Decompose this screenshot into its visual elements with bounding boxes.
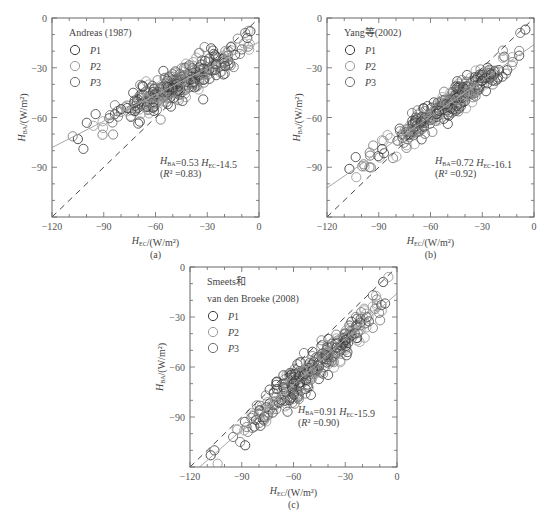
legend-label: P2: [364, 61, 376, 72]
x-tick-label: −30: [199, 221, 215, 232]
data-point: [236, 437, 245, 446]
y-tick-label: −90: [306, 162, 322, 173]
legend-marker-icon: [70, 61, 79, 70]
plot-area: [327, 18, 534, 217]
data-point: [351, 153, 360, 162]
figure: −120−90−60−300−90−60−300HEC/(W/m²)HBA/(W…: [0, 0, 543, 519]
x-axis-label: HEC/(W/m²): [406, 235, 454, 249]
legend-marker-icon: [208, 343, 217, 352]
data-point: [241, 441, 250, 450]
one-to-one-line: [52, 18, 259, 217]
x-tick-label: −90: [96, 221, 112, 232]
data-point: [256, 421, 265, 430]
data-point: [299, 348, 308, 357]
data-point: [207, 44, 216, 53]
x-tick-label: 0: [257, 221, 262, 232]
x-tick-label: −60: [423, 221, 439, 232]
legend-label: P3: [227, 343, 239, 354]
data-point: [379, 277, 388, 286]
legend-title: Smeets和: [207, 276, 246, 287]
x-tick-label: −30: [474, 221, 490, 232]
x-axis-label: HEC/(W/m²): [269, 485, 317, 499]
legend-marker-icon: [208, 327, 217, 336]
data-point: [91, 110, 100, 119]
legend-marker-icon: [345, 61, 354, 70]
regression-line: [52, 42, 259, 147]
legend-label: P1: [227, 311, 239, 322]
data-point: [200, 42, 209, 51]
x-tick-label: −60: [286, 471, 302, 482]
x-tick-label: −90: [234, 471, 250, 482]
plot-area: [52, 18, 259, 217]
data-point: [240, 417, 249, 426]
x-tick-label: −60: [148, 221, 164, 232]
legend-label: P3: [89, 77, 101, 88]
y-tick-label: −60: [169, 362, 185, 373]
data-point: [156, 115, 165, 124]
legend-label: P1: [89, 45, 101, 56]
y-axis-label: HBA/(W/m²): [154, 343, 168, 392]
legend-title: Yang等(2002): [344, 26, 401, 39]
r-squared-label: (R² =0.83): [160, 168, 201, 180]
x-tick-label: 0: [395, 471, 400, 482]
regression-line: [190, 294, 397, 476]
scatter-panel-c: −120−90−60−300−90−60−300HEC/(W/m²)HBA/(W…: [154, 262, 400, 511]
data-point: [384, 272, 393, 281]
y-tick-label: −90: [169, 412, 185, 423]
y-axis-label: HBA/(W/m²): [16, 93, 30, 142]
y-tick-label: 0: [180, 262, 185, 273]
y-axis-label: HBA/(W/m²): [291, 93, 305, 142]
data-point: [98, 130, 107, 139]
data-point: [199, 95, 208, 104]
data-point: [68, 132, 77, 141]
legend-label: P1: [364, 45, 376, 56]
data-point: [516, 28, 525, 37]
one-to-one-line: [327, 18, 534, 217]
y-tick-label: 0: [317, 13, 322, 24]
x-tick-label: −90: [371, 221, 387, 232]
y-tick-label: −30: [31, 63, 47, 74]
scatter-figure: −120−90−60−300−90−60−300HEC/(W/m²)HBA/(W…: [0, 0, 543, 519]
data-point: [134, 119, 143, 128]
x-axis-label: HEC/(W/m²): [131, 235, 179, 249]
panel-caption: (c): [288, 499, 299, 511]
scatter-panel-a: −120−90−60−300−90−60−300HEC/(W/m²)HBA/(W…: [16, 13, 262, 261]
legend-marker-icon: [70, 77, 79, 86]
y-tick-label: −30: [306, 63, 322, 74]
data-point: [369, 141, 378, 150]
y-tick-label: 0: [42, 13, 47, 24]
scatter-panel-b: −120−90−60−300−90−60−300HEC/(W/m²)HBA/(W…: [291, 13, 537, 261]
x-tick-label: 0: [532, 221, 537, 232]
legend-marker-icon: [208, 311, 217, 320]
data-point: [79, 144, 88, 153]
data-point: [229, 63, 238, 72]
legend-marker-icon: [345, 77, 354, 86]
legend-label: P3: [364, 77, 376, 88]
panel-caption: (a): [150, 249, 161, 261]
r-squared-label: (R² =0.90): [298, 417, 339, 429]
y-tick-label: −30: [169, 312, 185, 323]
legend-title: Andreas (1987): [69, 27, 131, 39]
y-tick-label: −60: [31, 113, 47, 124]
legend-title: van den Broeke (2008): [207, 293, 299, 305]
panel-caption: (b): [425, 249, 437, 261]
x-tick-label: −120: [180, 471, 201, 482]
y-tick-label: −90: [31, 162, 47, 173]
r-squared-label: (R² =0.92): [435, 168, 476, 180]
x-tick-label: −30: [337, 471, 353, 482]
legend-marker-icon: [70, 45, 79, 54]
y-tick-label: −60: [306, 113, 322, 124]
data-point: [352, 173, 361, 182]
x-tick-label: −120: [42, 221, 63, 232]
legend-marker-icon: [345, 45, 354, 54]
data-point: [109, 130, 118, 139]
x-tick-label: −120: [317, 221, 338, 232]
legend-label: P2: [89, 61, 101, 72]
legend-label: P2: [227, 327, 239, 338]
data-point: [241, 28, 250, 37]
